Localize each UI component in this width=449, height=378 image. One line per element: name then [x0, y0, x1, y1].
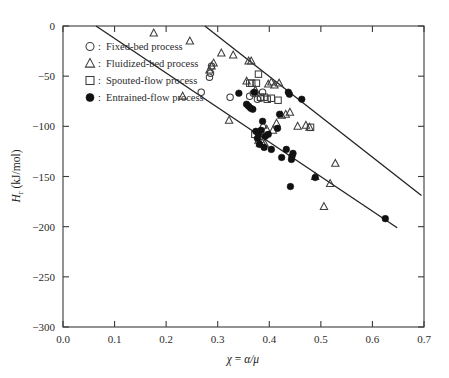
data-point — [332, 159, 339, 166]
filled-circle-icon — [86, 94, 94, 102]
y-axis-title: Hr (kJ/mol) — [10, 149, 25, 203]
data-point — [274, 125, 281, 132]
legend-separator: : — [98, 75, 101, 86]
legend-label: Entrained-flow process — [106, 92, 204, 103]
series-filled-circle — [236, 89, 389, 222]
legend-item-open-triangle[interactable]: :Fluidized-bed process — [85, 58, 198, 69]
y-tick-label: 0 — [50, 20, 56, 32]
data-point — [312, 174, 319, 181]
legend-label: Fluidized-bed process — [106, 58, 198, 69]
data-point — [236, 90, 243, 97]
data-point — [278, 154, 285, 161]
data-point — [261, 144, 268, 151]
x-axis-title: χ = α/μ — [226, 353, 260, 366]
open-triangle-icon — [85, 59, 94, 68]
data-point — [294, 122, 301, 129]
data-point — [382, 215, 389, 222]
data-point — [275, 97, 281, 103]
legend-separator: : — [98, 58, 101, 69]
x-tick-label: 0.0 — [56, 333, 70, 345]
axis-ticks — [63, 26, 424, 327]
open-square-icon — [86, 77, 94, 85]
legend-separator: : — [98, 92, 101, 103]
x-tick-label: 0.1 — [108, 333, 122, 345]
data-point — [150, 29, 157, 36]
legend-label: Spouted-flow process — [106, 75, 197, 86]
data-point — [251, 89, 258, 96]
trend-lines — [96, 26, 421, 228]
y-tick-label: −300 — [32, 321, 55, 333]
chart-legend: :Fixed-bed process:Fluidized-bed process… — [85, 41, 203, 103]
data-point — [286, 91, 293, 98]
lower-bound-line — [205, 26, 422, 196]
scatter-plot-figure: 0.00.10.20.30.40.50.60.70−50−100−150−200… — [0, 0, 449, 378]
data-point — [298, 96, 305, 103]
x-tick-label: 0.5 — [314, 333, 328, 345]
y-tick-label: −250 — [32, 271, 55, 283]
data-point — [283, 146, 290, 153]
data-point — [268, 146, 275, 153]
x-tick-label: 0.2 — [159, 333, 173, 345]
data-point — [320, 203, 327, 210]
y-tick-label: −150 — [32, 171, 55, 183]
data-point — [276, 111, 283, 118]
tick-labels: 0.00.10.20.30.40.50.60.70−50−100−150−200… — [32, 20, 431, 345]
data-point — [258, 127, 265, 134]
y-tick-label: −50 — [38, 70, 56, 82]
data-point — [265, 131, 272, 138]
legend-label: Fixed-bed process — [106, 41, 183, 52]
y-tick-label: −100 — [32, 120, 55, 132]
x-tick-label: 0.3 — [211, 333, 225, 345]
legend-item-open-square[interactable]: :Spouted-flow process — [86, 75, 197, 86]
open-circle-icon — [86, 43, 94, 51]
data-point — [227, 94, 233, 100]
data-point — [186, 37, 193, 44]
x-tick-label: 0.7 — [417, 333, 431, 345]
y-tick-label: −200 — [32, 221, 55, 233]
legend-separator: : — [98, 41, 101, 52]
data-point — [253, 80, 259, 86]
plot-frame — [63, 26, 424, 327]
chart-canvas: 0.00.10.20.30.40.50.60.70−50−100−150−200… — [0, 0, 449, 378]
data-point — [290, 150, 297, 157]
legend-item-open-circle[interactable]: :Fixed-bed process — [86, 41, 183, 52]
data-point — [259, 118, 266, 125]
data-point — [218, 49, 225, 56]
data-point — [249, 106, 256, 113]
series-open-triangle — [150, 29, 339, 209]
upper-bound-line — [96, 26, 397, 228]
data-point — [287, 183, 294, 190]
data-point — [286, 108, 293, 115]
legend-item-filled-circle[interactable]: :Entrained-flow process — [86, 92, 204, 103]
x-tick-label: 0.6 — [366, 333, 380, 345]
data-point — [230, 51, 237, 58]
x-tick-label: 0.4 — [262, 333, 276, 345]
data-point — [255, 71, 261, 77]
